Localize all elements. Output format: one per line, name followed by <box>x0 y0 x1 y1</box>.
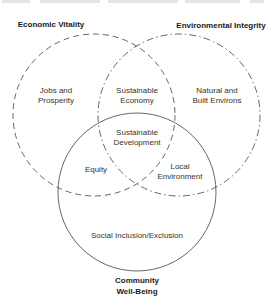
community-label-line1: Community <box>115 276 160 285</box>
sustainable-economy-line2: Economy <box>120 96 153 105</box>
jobs-prosperity-line2: Prosperity <box>38 96 74 105</box>
community-label-line2: Well-Being <box>116 287 157 296</box>
jobs-prosperity-line1: Jobs and <box>40 86 72 95</box>
environmental-integrity-label: Environmental Integrity <box>176 21 266 30</box>
economic-vitality-label: Economic Vitality <box>18 20 85 29</box>
sustainable-development-line1: Sustainable <box>116 128 158 137</box>
local-environment-line2: Environment <box>158 172 204 181</box>
venn-diagram: Economic Vitality Environmental Integrit… <box>0 0 274 305</box>
natural-built-environs-line2: Built Environs <box>193 96 242 105</box>
sustainable-development-line2: Development <box>113 138 161 147</box>
natural-built-environs-line1: Natural and <box>196 86 237 95</box>
social-inclusion-exclusion-label: Social Inclusion/Exclusion <box>91 231 183 240</box>
equity-label: Equity <box>85 165 107 174</box>
local-environment-line1: Local <box>170 162 189 171</box>
sustainable-economy-line1: Sustainable <box>116 86 158 95</box>
